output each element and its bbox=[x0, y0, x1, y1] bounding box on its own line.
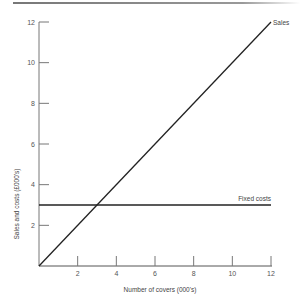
y-axis-label: Sales and costs (£000's) bbox=[13, 169, 21, 240]
x-tick-label: 10 bbox=[228, 270, 236, 277]
y-tick-label: 10 bbox=[27, 59, 35, 66]
x-tick-label: 8 bbox=[192, 270, 196, 277]
series-group bbox=[39, 22, 271, 266]
sales-series-label: Sales bbox=[273, 19, 290, 26]
series-line-sales bbox=[39, 22, 271, 266]
break-even-chart: 2468101224681012 SalesFixed costs Number… bbox=[0, 0, 300, 303]
top-rule bbox=[13, 2, 300, 4]
y-tick-label: 2 bbox=[31, 222, 35, 229]
y-tick-label: 8 bbox=[31, 100, 35, 107]
x-tick-label: 6 bbox=[153, 270, 157, 277]
labels-group: SalesFixed costs bbox=[238, 19, 290, 202]
y-tick-label: 12 bbox=[27, 19, 35, 26]
x-tick-label: 12 bbox=[267, 270, 275, 277]
y-tick-label: 6 bbox=[31, 141, 35, 148]
fixed-costs-series-label: Fixed costs bbox=[238, 195, 272, 202]
x-tick-label: 4 bbox=[114, 270, 118, 277]
x-tick-label: 2 bbox=[76, 270, 80, 277]
x-axis-label: Number of covers (000's) bbox=[124, 286, 197, 294]
y-tick-label: 4 bbox=[31, 181, 35, 188]
